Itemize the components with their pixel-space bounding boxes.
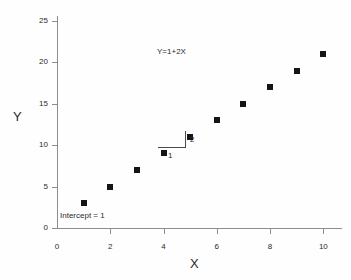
data-point-marker [81, 200, 87, 206]
intercept-annotation: Intercept = 1 [60, 212, 105, 220]
scatter-plot-figure: 0510152025 0246810 Y=1+2X Intercept = 1 … [0, 0, 351, 280]
y-tick-mark [52, 104, 57, 105]
slope-rise-label: 2 [190, 136, 194, 144]
y-tick-mark [52, 62, 57, 63]
y-tick-mark [52, 228, 57, 229]
data-point-marker [294, 68, 300, 74]
y-tick-mark [52, 187, 57, 188]
x-tick-mark [110, 229, 111, 234]
x-tick-label: 0 [45, 243, 69, 251]
x-axis-title: X [190, 257, 199, 270]
data-point-marker [320, 51, 326, 57]
y-tick-mark [52, 21, 57, 22]
slope-run-segment [158, 147, 185, 148]
data-point-marker [107, 184, 113, 190]
slope-run-label: 1 [168, 152, 172, 160]
y-axis-title: Y [13, 110, 22, 123]
y-tick-label: 0 [26, 224, 48, 232]
data-point-marker [161, 150, 167, 156]
y-tick-mark [52, 145, 57, 146]
y-tick-label: 5 [26, 183, 48, 191]
x-tick-label: 10 [311, 243, 335, 251]
slope-rise-segment [185, 131, 186, 148]
x-tick-label: 4 [152, 243, 176, 251]
y-axis-line [57, 16, 58, 229]
y-tick-label: 10 [26, 141, 48, 149]
y-tick-label: 25 [26, 17, 48, 25]
y-tick-label: 15 [26, 100, 48, 108]
data-point-marker [214, 117, 220, 123]
data-point-marker [134, 167, 140, 173]
y-tick-label: 20 [26, 58, 48, 66]
x-tick-label: 8 [258, 243, 282, 251]
equation-annotation: Y=1+2X [157, 48, 186, 56]
data-point-marker [267, 84, 273, 90]
x-tick-mark [270, 229, 271, 234]
x-tick-mark [217, 229, 218, 234]
x-tick-mark [164, 229, 165, 234]
x-axis-line [57, 228, 342, 229]
x-tick-mark [323, 229, 324, 234]
x-tick-label: 6 [205, 243, 229, 251]
data-point-marker [240, 101, 246, 107]
x-tick-label: 2 [98, 243, 122, 251]
